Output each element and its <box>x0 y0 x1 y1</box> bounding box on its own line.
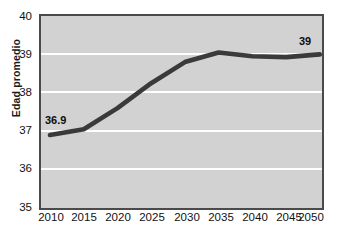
x-tick-label: 2050 <box>291 212 331 224</box>
series-line <box>41 16 322 208</box>
plot-inner <box>41 16 322 208</box>
y-tick-label: 36 <box>0 163 32 175</box>
y-tick-label: 40 <box>0 11 32 23</box>
plot-area <box>39 14 324 210</box>
y-tick-label: 39 <box>0 49 32 61</box>
x-tick-label: 2025 <box>132 212 172 224</box>
data-label-start: 36.9 <box>45 115 66 126</box>
y-tick-label: 37 <box>0 125 32 137</box>
x-axis-tick-labels: 2010 2015 2020 2025 2030 2035 2040 2045 … <box>39 212 324 232</box>
y-tick-label: 38 <box>0 87 32 99</box>
data-label-end: 39 <box>299 36 311 47</box>
line-chart: Edad promedio 40 39 38 37 36 35 36.9 39 … <box>0 0 337 232</box>
y-axis-tick-labels: 40 39 38 37 36 35 <box>0 0 36 232</box>
y-tick-label: 35 <box>0 202 32 214</box>
